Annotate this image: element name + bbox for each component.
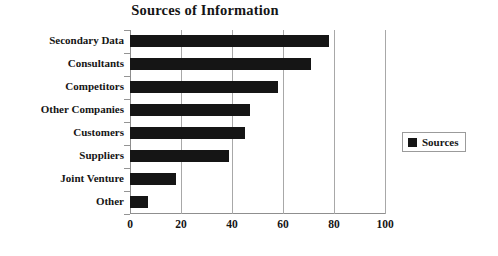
bar-band	[130, 30, 385, 53]
x-axis-tick-label: 20	[161, 218, 201, 230]
bar	[130, 150, 229, 162]
legend-swatch-square-icon	[408, 138, 417, 147]
bar	[130, 58, 311, 70]
bar	[130, 104, 250, 116]
x-axis-tick-label: 0	[110, 218, 150, 230]
bar-band	[130, 76, 385, 99]
bar-band	[130, 99, 385, 122]
y-axis-category-label: Other	[2, 195, 124, 207]
x-axis-tick-label: 40	[212, 218, 252, 230]
y-axis-category-label: Consultants	[2, 57, 124, 69]
chart-title: Sources of Information	[0, 2, 410, 19]
y-axis-category-label: Suppliers	[2, 149, 124, 161]
bar-chart-figure: Sources of Information Secondary DataCon…	[0, 0, 498, 256]
x-axis-tick-labels: 020406080100	[0, 218, 498, 238]
x-axis-tick-label: 100	[365, 218, 405, 230]
chart-legend: Sources	[402, 132, 466, 152]
gridline-100	[385, 30, 386, 214]
y-axis-tick	[124, 214, 130, 215]
bar	[130, 173, 176, 185]
bar-band	[130, 53, 385, 76]
y-axis-category-label: Competitors	[2, 80, 124, 92]
bar	[130, 35, 329, 47]
bar-band	[130, 122, 385, 145]
bar-band	[130, 168, 385, 191]
x-axis-tick-label: 60	[263, 218, 303, 230]
y-axis-category-label: Customers	[2, 126, 124, 138]
y-axis-category-label: Secondary Data	[2, 34, 124, 46]
legend-entry-label: Sources	[422, 136, 458, 148]
bar	[130, 127, 245, 139]
plot-area	[130, 30, 385, 214]
bar-band	[130, 145, 385, 168]
y-axis-category-label: Other Companies	[2, 103, 124, 115]
bar-band	[130, 191, 385, 214]
y-axis-category-labels: Secondary DataConsultantsCompetitorsOthe…	[0, 30, 124, 214]
bar	[130, 81, 278, 93]
x-axis-tick-label: 80	[314, 218, 354, 230]
y-axis-category-label: Joint Venture	[2, 172, 124, 184]
bar	[130, 196, 148, 208]
